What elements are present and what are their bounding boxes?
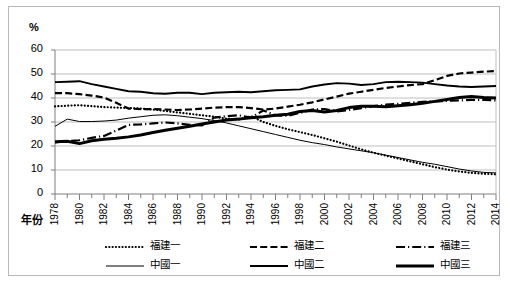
legend-label: 中國二 — [294, 256, 324, 271]
x-tick-label: 2002 — [343, 203, 354, 225]
x-tick-label: 1994 — [245, 203, 256, 225]
x-tick-label: 1990 — [196, 203, 207, 225]
y-tick-label: 0 — [17, 186, 43, 198]
x-tick-label: 1988 — [172, 203, 183, 225]
x-tick-label: 2012 — [466, 203, 477, 225]
x-tick-label: 2014 — [490, 203, 501, 225]
legend-fujian-2[interactable]: 福建二 — [249, 235, 395, 254]
y-tick-label: 60 — [17, 42, 43, 54]
y-tick-label: 10 — [17, 162, 43, 174]
y-tick-label: 50 — [17, 66, 43, 78]
x-tick-label: 1980 — [74, 203, 85, 225]
legend-row: 福建一福建二福建三 — [105, 235, 485, 254]
x-tick-label: 1992 — [221, 203, 232, 225]
legend-swatch-thin-solid — [105, 258, 145, 270]
x-tick-label: 1984 — [123, 203, 134, 225]
y-tick-label: 40 — [17, 90, 43, 102]
legend-china-3[interactable]: 中國三 — [395, 254, 485, 273]
x-tick-label: 1996 — [270, 203, 281, 225]
legend-swatch-thick-solid — [395, 258, 435, 270]
series-line-5 — [55, 81, 496, 94]
chart-legend: 福建一福建二福建三中國一中國二中國三 — [105, 235, 485, 273]
legend-swatch-dashed — [249, 239, 289, 251]
legend-row: 中國一中國二中國三 — [105, 254, 485, 273]
legend-label: 福建三 — [440, 237, 470, 252]
x-tick-label: 2010 — [441, 203, 452, 225]
x-tick-label: 2004 — [368, 203, 379, 225]
series-line-6 — [55, 97, 496, 144]
series-line-4 — [55, 115, 496, 173]
series-line-3 — [55, 100, 496, 142]
x-tick-label: 2006 — [392, 203, 403, 225]
legend-fujian-1[interactable]: 福建一 — [105, 235, 249, 254]
legend-label: 福建二 — [294, 237, 324, 252]
legend-swatch-dotted — [105, 239, 145, 251]
y-tick-label: 20 — [17, 138, 43, 150]
x-axis-title: 年份 — [21, 211, 43, 227]
x-tick-label: 1978 — [49, 203, 60, 225]
legend-label: 福建一 — [150, 237, 180, 252]
legend-label: 中國一 — [150, 256, 180, 271]
legend-fujian-3[interactable]: 福建三 — [395, 235, 485, 254]
x-tick-label: 2000 — [319, 203, 330, 225]
legend-swatch-medium-solid — [249, 258, 289, 270]
y-tick-label: 30 — [17, 114, 43, 126]
legend-swatch-dashdot — [395, 239, 435, 251]
legend-china-2[interactable]: 中國二 — [249, 254, 395, 273]
x-tick-label: 2008 — [417, 203, 428, 225]
x-tick-label: 1982 — [98, 203, 109, 225]
legend-label: 中國三 — [440, 256, 470, 271]
x-tick-label: 1986 — [147, 203, 158, 225]
chart-frame: % 年份 01020304050601978198019821984198619… — [8, 6, 500, 276]
x-tick-label: 1998 — [294, 203, 305, 225]
legend-china-1[interactable]: 中國一 — [105, 254, 249, 273]
